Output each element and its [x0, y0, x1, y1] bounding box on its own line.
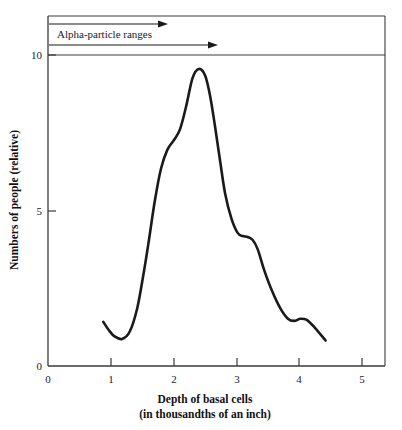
alpha-particle-ranges-label: Alpha-particle ranges — [57, 28, 152, 40]
y-tick-label-0: 0 — [37, 360, 43, 372]
x-tick-label-3: 3 — [234, 373, 240, 385]
x-tick-label-2: 2 — [171, 373, 177, 385]
x-tick-label-1: 1 — [108, 373, 114, 385]
x-axis-title-line2: (in thousandths of an inch) — [139, 408, 271, 421]
chart-svg: Alpha-particle ranges 0 5 10 — [0, 0, 402, 430]
y-tick-label-10: 10 — [31, 49, 43, 61]
x-tick-label-4: 4 — [296, 373, 302, 385]
y-axis-title: Numbers of people (relative) — [8, 130, 21, 270]
x-tick-label-5: 5 — [359, 373, 365, 385]
y-tick-label-5: 5 — [37, 205, 43, 217]
x-tick-label-0: 0 — [45, 373, 51, 385]
chart-figure: Alpha-particle ranges 0 5 10 — [0, 0, 402, 430]
x-axis-title-line1: Depth of basal cells — [158, 393, 253, 406]
